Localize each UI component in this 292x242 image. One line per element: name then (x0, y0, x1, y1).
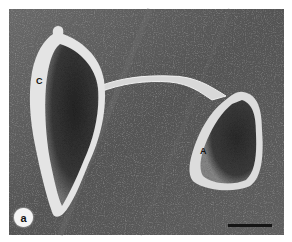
micrograph-figure: C A a (0, 0, 292, 242)
panel-label-badge: a (14, 208, 33, 227)
panel-label: a (20, 212, 26, 224)
cell-a-label: A (200, 147, 207, 156)
cell-c-label: C (36, 77, 43, 86)
micrograph-image (0, 0, 292, 242)
scale-bar (228, 224, 272, 227)
